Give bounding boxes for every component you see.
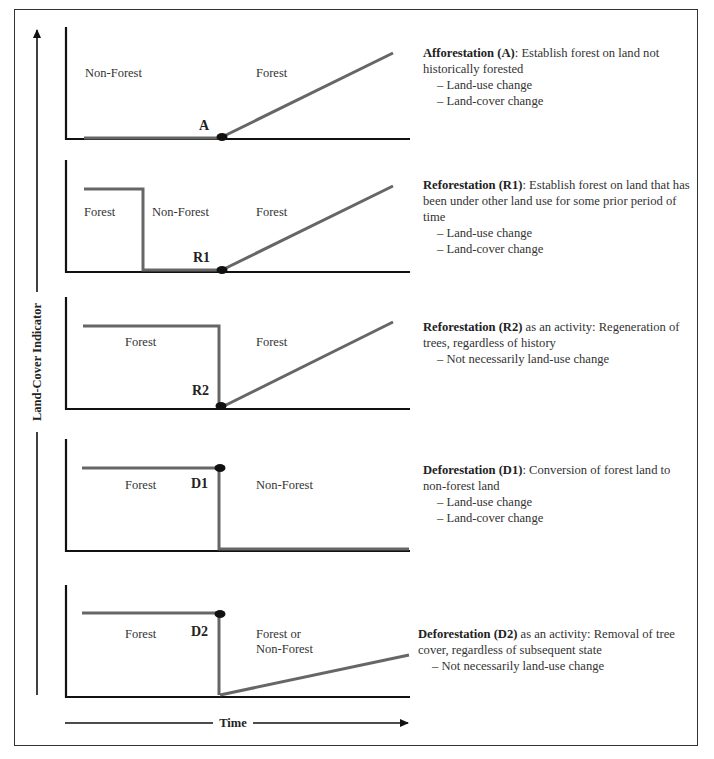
term: Reforestation (R1) [423, 178, 522, 192]
panel-axes [66, 297, 410, 409]
trajectory [222, 186, 393, 270]
panel-deforestation-d1: Forest Non-Forest D1 [66, 439, 410, 551]
region-label: Forest [125, 478, 157, 492]
bullet-item: – Land-cover change [423, 93, 693, 109]
region-label: Non-Forest [256, 478, 313, 492]
panel-axes [66, 439, 410, 551]
y-axis-label: Land-Cover Indicator [30, 302, 44, 421]
description-deforestation-d2: Deforestation (D2) as an activity: Remov… [418, 626, 688, 674]
description-reforestation-r1: Reforestation (R1): Establish forest on … [423, 177, 693, 257]
panel-deforestation-d2: Forest Forest or Non-Forest D2 [66, 585, 410, 697]
event-dot [217, 266, 228, 274]
trajectory [220, 655, 409, 695]
region-label: Forest [256, 335, 288, 349]
region-label: Forest [84, 205, 116, 219]
event-dot [217, 133, 228, 141]
region-label: Forest [125, 335, 157, 349]
region-label: Non-Forest [152, 205, 209, 219]
panel-axes [66, 585, 410, 697]
x-axis-label: Time [219, 716, 247, 730]
bullet-item: – Not necessarily land-use change [423, 351, 693, 367]
panel-reforestation-r1: Forest Non-Forest Forest R1 [66, 160, 410, 274]
y-axis: Land-Cover Indicator [30, 30, 44, 695]
event-code: D1 [191, 476, 208, 491]
region-label: Forest [125, 627, 157, 641]
bullet-item: – Land-cover change [423, 241, 693, 257]
event-dot [215, 610, 226, 618]
term: Afforestation (A) [423, 46, 515, 60]
bullet-item: – Not necessarily land-use change [418, 658, 688, 674]
event-code: R2 [192, 383, 209, 398]
event-code: R1 [193, 250, 210, 265]
term: Reforestation (R2) [423, 320, 522, 334]
bullet-item: – Land-cover change [423, 510, 693, 526]
panel-axes [66, 160, 410, 272]
term: Deforestation (D1) [423, 463, 522, 477]
event-dot [216, 402, 227, 410]
trajectory [222, 53, 393, 137]
panel-reforestation-r2: Forest Forest R2 [66, 297, 410, 410]
description-deforestation-d1: Deforestation (D1): Conversion of forest… [423, 462, 693, 526]
event-code: D2 [191, 624, 208, 639]
panel-axes [66, 27, 410, 139]
region-label: Forest or [256, 627, 302, 641]
event-dot [215, 464, 226, 472]
region-label: Forest [256, 66, 288, 80]
region-label: Non-Forest [256, 642, 313, 656]
region-label: Non-Forest [85, 66, 142, 80]
bullet-item: – Land-use change [423, 77, 693, 93]
description-reforestation-r2: Reforestation (R2) as an activity: Regen… [423, 319, 693, 367]
bullet-item: – Land-use change [423, 494, 693, 510]
event-code: A [199, 118, 210, 133]
description-afforestation: Afforestation (A): Establish forest on l… [423, 45, 693, 109]
x-axis: Time [65, 716, 408, 730]
term: Deforestation (D2) [418, 627, 517, 641]
trajectory [222, 322, 393, 407]
bullet-item: – Land-use change [423, 225, 693, 241]
region-label: Forest [256, 205, 288, 219]
panel-afforestation: Non-Forest Forest A [66, 27, 410, 141]
